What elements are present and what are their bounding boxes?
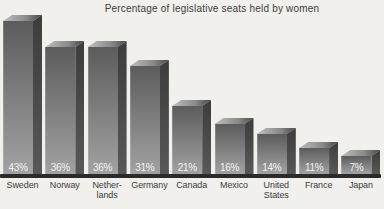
bar-canada: 21% bbox=[172, 100, 211, 174]
bar-side-face-mexico bbox=[245, 118, 254, 174]
bar-side-face-united-states bbox=[287, 128, 296, 174]
bar-front-face-japan: 7% bbox=[341, 156, 371, 174]
bar-front-face-norway: 36% bbox=[45, 47, 75, 174]
bar-front-face-sweden: 43% bbox=[3, 21, 33, 174]
bar-front-face-germany: 31% bbox=[130, 66, 160, 174]
category-label-line: Japan bbox=[335, 180, 384, 190]
value-label-japan: 7% bbox=[341, 162, 371, 173]
bar-mexico: 16% bbox=[215, 118, 254, 174]
category-label-line: States bbox=[250, 190, 302, 200]
bar-sweden: 43% bbox=[3, 15, 42, 174]
bar-side-face-germany bbox=[160, 60, 169, 174]
bar-norway: 36% bbox=[45, 41, 84, 174]
bar-front-face-france: 11% bbox=[299, 148, 329, 174]
bar-front-face-mexico: 16% bbox=[215, 124, 245, 174]
bar-chart-figure: Percentage of legislative seats held by … bbox=[0, 0, 384, 209]
value-label-netherlands: 36% bbox=[88, 162, 118, 173]
category-label-japan: Japan bbox=[335, 180, 384, 190]
value-label-sweden: 43% bbox=[3, 162, 33, 173]
bar-side-face-canada bbox=[202, 100, 211, 174]
bar-netherlands: 36% bbox=[88, 41, 127, 174]
bar-france: 11% bbox=[299, 142, 338, 174]
bar-side-face-sweden bbox=[33, 15, 42, 174]
value-label-canada: 21% bbox=[172, 162, 202, 173]
bar-front-face-netherlands: 36% bbox=[88, 47, 118, 174]
bar-united-states: 14% bbox=[257, 128, 296, 174]
value-label-norway: 36% bbox=[45, 162, 75, 173]
bar-side-face-norway bbox=[75, 41, 84, 174]
bar-front-face-united-states: 14% bbox=[257, 134, 287, 174]
chart-title: Percentage of legislative seats held by … bbox=[20, 3, 384, 14]
value-label-germany: 31% bbox=[130, 162, 160, 173]
category-label-line: lands bbox=[81, 190, 133, 200]
value-label-france: 11% bbox=[299, 162, 329, 173]
bar-germany: 31% bbox=[130, 60, 169, 174]
bar-side-face-netherlands bbox=[118, 41, 127, 174]
x-axis-line bbox=[0, 174, 381, 178]
bar-front-face-canada: 21% bbox=[172, 106, 202, 174]
bar-japan: 7% bbox=[341, 150, 380, 174]
value-label-mexico: 16% bbox=[215, 162, 245, 173]
value-label-united-states: 14% bbox=[257, 162, 287, 173]
